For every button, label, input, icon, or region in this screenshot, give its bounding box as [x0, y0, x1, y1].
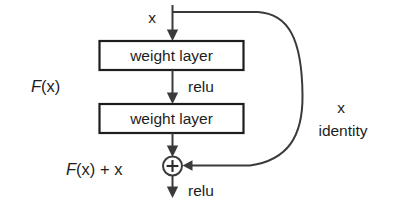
layer2-to-sum-arrow-group — [167, 133, 178, 157]
layer2-to-sum-arrowhead — [167, 146, 178, 158]
relu-middle-arrowhead — [167, 93, 178, 105]
weight-layer-1-label: weight layer — [129, 47, 213, 64]
relu-middle-arrow-group — [167, 70, 178, 104]
relu-output-label: relu — [188, 182, 214, 199]
residual-block-diagram: weight layer weight layer x — [0, 0, 398, 207]
identity-x-label: x — [337, 99, 345, 116]
identity-skip-arrowhead — [183, 160, 193, 170]
function-fx-rest-part: (x) — [41, 77, 60, 95]
weight-layer-box-2: weight layer — [100, 104, 244, 133]
output-fx-rest-part: (x) + x — [76, 160, 123, 178]
input-x-label: x — [148, 9, 156, 26]
output-arrow-group — [167, 176, 178, 198]
diagram-canvas: weight layer weight layer x — [0, 0, 398, 207]
function-fx-label: F(x) — [31, 77, 60, 95]
weight-layer-box-1: weight layer — [100, 41, 244, 70]
output-arrowhead — [167, 187, 178, 199]
identity-word-label: identity — [318, 122, 367, 139]
input-arrow-group — [167, 5, 178, 41]
relu-middle-label: relu — [188, 78, 214, 95]
weight-layer-2-label: weight layer — [129, 110, 213, 127]
input-arrowhead — [167, 30, 178, 42]
output-fx-plus-x-label: F(x) + x — [66, 160, 123, 178]
sum-node — [163, 157, 182, 176]
